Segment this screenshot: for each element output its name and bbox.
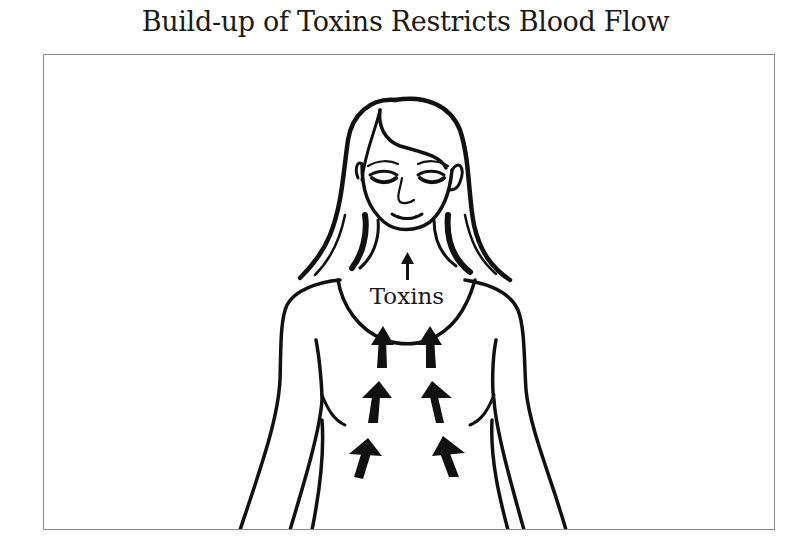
arrow-up-icon bbox=[349, 438, 382, 479]
toxins-label: Toxins bbox=[352, 283, 462, 309]
arrow-up-icon bbox=[401, 252, 414, 280]
right-eye bbox=[418, 171, 444, 175]
arrow-up-icon bbox=[362, 381, 392, 423]
woman-figure-illustration bbox=[0, 0, 811, 547]
arrow-up-icon bbox=[432, 436, 465, 477]
nose bbox=[398, 178, 414, 203]
hair-outline bbox=[300, 99, 510, 280]
arrow-up-icon bbox=[421, 381, 452, 423]
arrow-up-icon bbox=[418, 326, 442, 368]
arrow-up-icon bbox=[371, 326, 394, 368]
torso-outline bbox=[240, 280, 566, 530]
mouth bbox=[392, 214, 422, 219]
left-eye bbox=[370, 171, 397, 175]
